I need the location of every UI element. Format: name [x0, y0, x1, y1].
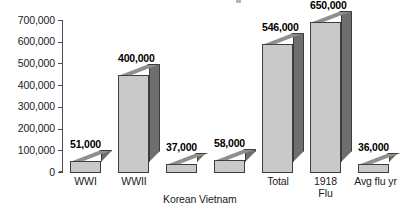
bar-wwi-front-face [70, 161, 101, 173]
category-label-wwii: WWII [114, 176, 154, 188]
bar-avg-flu-yr[interactable] [358, 153, 389, 173]
category-label-total: Total [259, 176, 297, 188]
value-label-total: 546,000 [262, 22, 299, 33]
bar-chart: 700,000 600,000 500,000 400,000 300,000 … [0, 0, 417, 217]
category-label-korean-vietnam: Korean Vietnam [163, 194, 237, 206]
y-axis-label-100000: 100,000 [18, 145, 55, 155]
bar-korean-front-face [166, 164, 197, 173]
bar-wwii[interactable] [118, 64, 149, 173]
bar-total-front-face [262, 44, 293, 173]
bar-total-side-face [293, 33, 304, 162]
y-axis-label-0: 0 [49, 167, 55, 177]
y-axis-tick [58, 63, 63, 64]
y-axis-label-200000: 200,000 [18, 123, 55, 133]
bar-1918-flu-side-face [341, 11, 352, 162]
y-axis-tick [58, 85, 63, 86]
category-label-avg-flu-yr: Avg flu yr [347, 176, 404, 188]
bar-wwii-side-face [149, 64, 160, 162]
value-label-korean: 37,000 [166, 142, 197, 153]
category-label-1918-flu-line2: Flu [308, 188, 343, 200]
bar-korean[interactable] [166, 153, 197, 173]
value-label-vietnam: 58,000 [214, 138, 245, 149]
y-axis-label-600000: 600,000 [18, 36, 55, 46]
y-axis-tick [58, 107, 63, 108]
bar-wwii-front-face [118, 75, 149, 173]
y-axis-tick [58, 20, 63, 21]
value-label-wwii: 400,000 [118, 53, 155, 64]
y-axis-tick [58, 150, 63, 151]
y-axis-tick [58, 172, 63, 173]
y-axis-label-700000: 700,000 [18, 15, 55, 25]
category-label-1918-flu-line1: 1918 [308, 176, 343, 188]
y-axis-line [62, 20, 63, 172]
value-label-1918-flu: 650,000 [310, 0, 347, 11]
bar-total[interactable] [262, 33, 293, 173]
y-axis-tick [58, 129, 63, 130]
category-label-wwi: WWI [70, 176, 101, 188]
bar-1918-flu[interactable] [310, 11, 341, 173]
y-axis-label-500000: 500,000 [18, 58, 55, 68]
cropped-title-artifact [236, 0, 241, 3]
y-axis-tick [58, 42, 63, 43]
value-label-wwi: 51,000 [70, 139, 101, 150]
bar-vietnam-front-face [214, 160, 245, 173]
bar-1918-flu-front-face [310, 22, 341, 173]
y-axis-label-300000: 300,000 [18, 101, 55, 111]
value-label-avg-flu-yr: 36,000 [358, 142, 389, 153]
bar-avg-flu-yr-front-face [358, 164, 389, 173]
bar-wwi[interactable] [70, 150, 101, 173]
bar-vietnam[interactable] [214, 149, 245, 173]
y-axis-label-400000: 400,000 [18, 80, 55, 90]
